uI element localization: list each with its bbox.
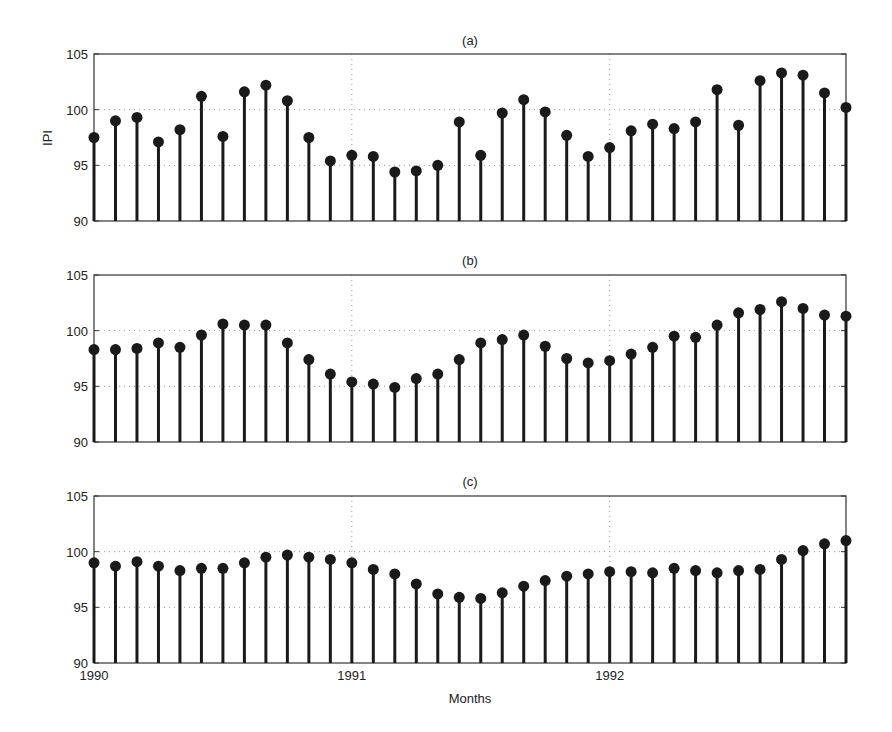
stem-marker [174, 124, 185, 135]
stem-marker [260, 80, 271, 91]
stem-marker [712, 567, 723, 578]
stem-marker [217, 563, 228, 574]
stem-marker [604, 142, 615, 153]
stem-marker [604, 566, 615, 577]
axes-box [94, 275, 846, 442]
stem-marker [368, 564, 379, 575]
stem-marker [518, 94, 529, 105]
stem-marker [497, 334, 508, 345]
stem-marker [776, 296, 787, 307]
stem-marker [110, 561, 121, 572]
panel-b-title: (b) [462, 253, 478, 268]
stem-marker [346, 557, 357, 568]
y-tick-label: 95 [74, 379, 88, 394]
stem-marker [389, 167, 400, 178]
stem-marker [583, 151, 594, 162]
stem-marker [798, 303, 809, 314]
y-tick-label: 105 [66, 47, 88, 62]
x-tick-label: 1992 [595, 668, 624, 683]
stem-marker [690, 116, 701, 127]
stem-marker [497, 587, 508, 598]
stem-marker [260, 552, 271, 563]
stem-marker [626, 349, 637, 360]
stem-marker [733, 307, 744, 318]
stem-marker [454, 592, 465, 603]
stem-marker [604, 355, 615, 366]
stem-marker [561, 571, 572, 582]
stem-marker [260, 320, 271, 331]
stem-marker [110, 344, 121, 355]
stem-marker [239, 320, 250, 331]
stem-marker [346, 376, 357, 387]
stem-marker [389, 382, 400, 393]
stem-marker [475, 337, 486, 348]
y-tick-label: 105 [66, 268, 88, 283]
stem-marker [755, 304, 766, 315]
stem-marker [368, 151, 379, 162]
stem-marker [282, 95, 293, 106]
stem-marker [303, 354, 314, 365]
stem-marker [303, 552, 314, 563]
stem-marker [798, 545, 809, 556]
stem-marker [690, 565, 701, 576]
stem-marker [798, 70, 809, 81]
stem-marker [411, 578, 422, 589]
stem-marker [475, 593, 486, 604]
stem-marker [389, 568, 400, 579]
stem-marker [712, 84, 723, 95]
stem-marker [647, 567, 658, 578]
panel-a: (a) IPI 9095100105 [40, 33, 852, 229]
stem-marker [89, 132, 100, 143]
stem-marker [325, 155, 336, 166]
stem-marker [561, 353, 572, 364]
stem-marker [755, 564, 766, 575]
stem-marker [540, 575, 551, 586]
y-tick-label: 100 [66, 545, 88, 560]
stem-marker [841, 102, 852, 113]
stem-marker [131, 556, 142, 567]
stem-marker [819, 310, 830, 321]
y-axis-label: IPI [40, 130, 55, 146]
stem-marker [776, 67, 787, 78]
stem-marker [755, 75, 766, 86]
stem-marker [819, 87, 830, 98]
stem-marker [110, 115, 121, 126]
stem-marker [89, 557, 100, 568]
y-tick-label: 90 [74, 214, 88, 229]
stem-marker [153, 136, 164, 147]
stem-marker [432, 160, 443, 171]
stem-marker [153, 337, 164, 348]
stem-marker [669, 331, 680, 342]
stem-marker [647, 342, 658, 353]
stem-marker [712, 320, 723, 331]
stem-marker [196, 563, 207, 574]
y-tick-label: 95 [74, 600, 88, 615]
stem-marker [432, 369, 443, 380]
stem-marker [518, 330, 529, 341]
stem-marker [325, 369, 336, 380]
stem-marker [841, 311, 852, 322]
stem-marker [325, 554, 336, 565]
stem-marker [411, 165, 422, 176]
panel-a-title: (a) [462, 33, 478, 48]
x-tick-label: 1990 [80, 668, 109, 683]
stem-marker [454, 354, 465, 365]
stem-marker [217, 131, 228, 142]
stem-marker [196, 91, 207, 102]
stem-marker [518, 581, 529, 592]
stem-marker [475, 150, 486, 161]
x-axis-label: Months [449, 691, 492, 706]
axes-box [94, 496, 846, 663]
stem-marker [497, 108, 508, 119]
stem-marker [239, 86, 250, 97]
stem-marker [89, 344, 100, 355]
stem-marker [841, 535, 852, 546]
stem-marker [454, 116, 465, 127]
stem-marker [690, 332, 701, 343]
stem-marker [282, 337, 293, 348]
stem-marker [626, 125, 637, 136]
stem-marker [131, 112, 142, 123]
stem-marker [583, 568, 594, 579]
y-tick-label: 100 [66, 324, 88, 339]
ipi-stem-figure: (a) IPI 9095100105 (b) 9095100105 (c) Mo… [0, 0, 892, 732]
